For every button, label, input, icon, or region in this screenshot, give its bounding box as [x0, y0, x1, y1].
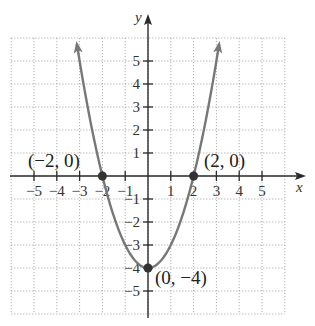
x-tick-label: 5 [258, 183, 266, 199]
point-label-right: (2, 0) [204, 150, 245, 172]
x-tick-label: 4 [235, 183, 243, 199]
point-neg2-0 [98, 172, 107, 181]
point-0-neg4 [144, 264, 153, 273]
y-tick-label: −2 [124, 214, 140, 230]
point-label-left: (−2, 0) [28, 150, 80, 172]
y-axis-label: y [133, 9, 142, 25]
y-tick-label: 2 [133, 122, 141, 138]
y-tick-label: −5 [124, 283, 140, 299]
x-tick-label: −4 [49, 183, 65, 199]
x-tick-label: 1 [167, 183, 175, 199]
y-tick-label: 5 [133, 53, 141, 69]
parabola-graph: x y −5−4−3−2−11234554321−1−2−3−4−5 (−2, … [0, 0, 315, 326]
y-tick-label: 4 [133, 76, 141, 92]
y-tick-label: −1 [124, 191, 140, 207]
x-tick-label: −3 [72, 183, 88, 199]
point-label-vertex: (0, −4) [155, 267, 207, 289]
x-tick-label: −5 [26, 183, 42, 199]
x-axis-label: x [295, 179, 303, 195]
y-tick-label: 1 [133, 145, 141, 161]
y-tick-label: 3 [133, 99, 141, 115]
x-tick-label: 3 [213, 183, 221, 199]
point-2-0 [189, 172, 198, 181]
